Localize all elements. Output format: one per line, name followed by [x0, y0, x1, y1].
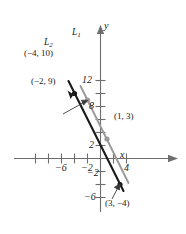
y-tick-label-2: 2 — [89, 140, 94, 150]
point-label-1-3: (1, 3) — [114, 112, 134, 121]
line-L1-label: L1 — [72, 28, 81, 39]
leader-arrowhead-3-neg4 — [114, 184, 120, 190]
y-tick-label-12: 12 — [82, 75, 92, 85]
y-axis-label: y — [104, 21, 108, 31]
coordinate-plane-figure: x y L2 L1 (−4, 10) (−2, 9) (1, 3) (3, −4… — [0, 0, 186, 234]
y-tick-label-8: 8 — [89, 101, 94, 111]
leader-arrowhead-neg2-9 — [82, 100, 88, 105]
point-label-neg4-10: (−4, 10) — [24, 49, 53, 58]
x-tick-label-4: 4 — [124, 163, 129, 173]
y-tick-label-neg2: −2 — [87, 168, 99, 178]
axes-group — [14, 31, 172, 212]
line-L1-label-subscript: 1 — [77, 31, 81, 39]
point-label-3-neg4: (3, −4) — [105, 199, 130, 208]
y-tick-label-neg6: −6 — [84, 192, 96, 202]
x-axis-label: x — [120, 150, 124, 160]
x-axis-arrowhead — [168, 155, 178, 163]
point-label-neg2-9: (−2, 9) — [31, 77, 56, 86]
x-tick-label-neg6: −6 — [55, 163, 67, 173]
point-marker-1-3 — [104, 136, 109, 141]
